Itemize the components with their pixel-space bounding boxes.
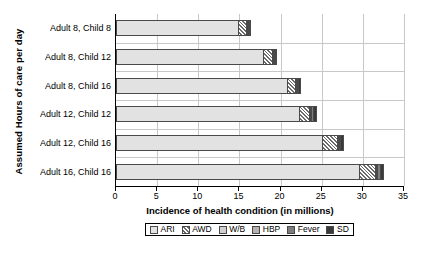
stacked-bar[interactable] bbox=[116, 106, 317, 122]
awd-swatch bbox=[182, 226, 190, 234]
legend-label: W/B bbox=[229, 225, 245, 234]
legend-item-fever[interactable]: Fever bbox=[287, 225, 319, 234]
y-axis-tick-label: Adult 8, Child 16 bbox=[17, 81, 111, 91]
y-axis-tick-label: Adult 16, Child 16 bbox=[17, 167, 111, 177]
bar-segment-ari[interactable] bbox=[116, 20, 238, 36]
y-axis-tick-label: Adult 8, Child 12 bbox=[17, 52, 111, 62]
legend-label: ARI bbox=[161, 225, 175, 234]
y-axis-tick-label: Adult 12, Child 16 bbox=[17, 138, 111, 148]
legend-item-sd[interactable]: SD bbox=[326, 225, 348, 234]
x-axis-tick-label: 10 bbox=[182, 191, 212, 201]
y-axis-tick-labels: Adult 8, Child 8Adult 8, Child 12Adult 8… bbox=[18, 14, 113, 186]
fever-swatch bbox=[287, 226, 295, 234]
bar-segment-sd[interactable] bbox=[313, 106, 317, 122]
x-axis-tick-label: 0 bbox=[100, 191, 130, 201]
bar-segment-awd[interactable] bbox=[287, 78, 294, 94]
bar-segment-ari[interactable] bbox=[116, 106, 299, 122]
bar-segment-awd[interactable] bbox=[238, 20, 246, 36]
x-axis-tick-label: 15 bbox=[223, 191, 253, 201]
row-separator bbox=[116, 100, 404, 101]
y-axis-tick-label: Adult 12, Child 12 bbox=[17, 109, 111, 119]
stacked-bar[interactable] bbox=[116, 164, 384, 180]
legend-label: Fever bbox=[298, 225, 320, 234]
row-separator bbox=[116, 43, 404, 44]
bar-segment-ari[interactable] bbox=[116, 135, 322, 151]
chart-legend: ARIAWDW/BHBPFeverSD bbox=[145, 223, 354, 236]
x-axis-tick-label: 30 bbox=[347, 191, 377, 201]
row-separator bbox=[116, 157, 404, 158]
bar-segment-sd[interactable] bbox=[275, 49, 277, 65]
hbp-swatch bbox=[252, 226, 260, 234]
row-separator bbox=[116, 71, 404, 72]
legend-label: AWD bbox=[192, 225, 212, 234]
gridline bbox=[404, 14, 405, 186]
bar-segment-sd[interactable] bbox=[340, 135, 344, 151]
plot-area bbox=[115, 14, 404, 187]
bar-segment-awd[interactable] bbox=[299, 106, 310, 122]
bar-segment-sd[interactable] bbox=[380, 164, 385, 180]
legend-item-hbp[interactable]: HBP bbox=[252, 225, 280, 234]
chart-container: Assumed Hours of care per day Adult 8, C… bbox=[0, 0, 429, 260]
legend-item-awd[interactable]: AWD bbox=[182, 225, 212, 234]
stacked-bar[interactable] bbox=[116, 78, 301, 94]
bar-segment-ari[interactable] bbox=[116, 49, 263, 65]
x-axis-tick-label: 25 bbox=[306, 191, 336, 201]
wb-swatch bbox=[219, 226, 227, 234]
legend-label: HBP bbox=[263, 225, 280, 234]
bar-segment-sd[interactable] bbox=[298, 78, 302, 94]
legend-label: SD bbox=[337, 225, 349, 234]
legend-item-ari[interactable]: ARI bbox=[150, 225, 175, 234]
bar-segment-sd[interactable] bbox=[249, 20, 251, 36]
stacked-bar[interactable] bbox=[116, 135, 344, 151]
bar-segment-ari[interactable] bbox=[116, 164, 359, 180]
bar-segment-awd[interactable] bbox=[263, 49, 271, 65]
stacked-bar[interactable] bbox=[116, 20, 251, 36]
x-axis-tick-label: 5 bbox=[141, 191, 171, 201]
x-axis-tick-label: 20 bbox=[265, 191, 295, 201]
y-axis-tick-label: Adult 8, Child 8 bbox=[17, 23, 111, 33]
x-axis-tick-labels: 05101520253035 bbox=[115, 191, 404, 205]
legend-item-w-b[interactable]: W/B bbox=[219, 225, 246, 234]
sd-swatch bbox=[326, 226, 334, 234]
bar-segment-awd[interactable] bbox=[359, 164, 375, 180]
ari-swatch bbox=[150, 226, 158, 234]
x-axis-tick-label: 35 bbox=[388, 191, 418, 201]
bar-segment-awd[interactable] bbox=[322, 135, 337, 151]
row-separator bbox=[116, 129, 404, 130]
bar-segment-ari[interactable] bbox=[116, 78, 287, 94]
x-axis-title: Incidence of health condition (in millio… bbox=[60, 205, 420, 216]
stacked-bar[interactable] bbox=[116, 49, 277, 65]
